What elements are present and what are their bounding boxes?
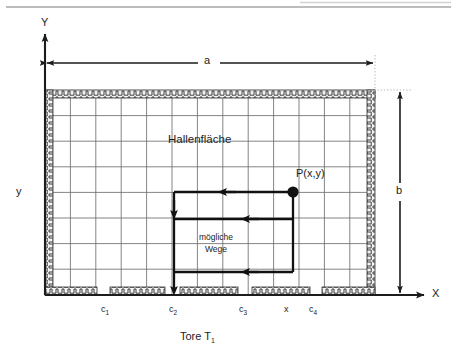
axis-tick-label-x: x (284, 305, 289, 314)
caption-subscript: 1 (211, 337, 215, 344)
axis-tick-label-c2: c2 (169, 305, 177, 317)
axis-tick-label-c4: c4 (309, 305, 317, 317)
axis-label-y-lower: y (16, 186, 22, 198)
axis-label-x: X (432, 288, 439, 300)
point-p-marker (287, 186, 298, 197)
page-rule (6, 3, 451, 8)
axis-tick-label-c1: c1 (101, 305, 109, 317)
caption-text: Tore T (180, 330, 211, 342)
tick-subscript: 3 (244, 309, 248, 316)
tick-subscript: 4 (314, 309, 318, 316)
figure-caption: Tore T1 (180, 331, 215, 345)
paths-label-line2: Wege (191, 245, 241, 254)
axis-label-y: Y (41, 17, 48, 29)
point-label-p: P(x,y) (296, 168, 325, 180)
area-label-hallenflaeche: Hallenfläche (168, 133, 231, 145)
figure-canvas: Y X y a b Hallenfläche P(x,y) mögliche W… (0, 0, 457, 359)
tick-base: x (284, 304, 289, 314)
axis-tick-label-c3: c3 (239, 305, 247, 317)
tick-subscript: 1 (106, 309, 110, 316)
dimension-label-b: b (396, 185, 402, 197)
dimension-label-a: a (204, 55, 210, 67)
paths-label-line1: mögliche (191, 233, 241, 242)
tick-subscript: 2 (174, 309, 178, 316)
diagram-svg (0, 0, 457, 359)
dimension-helpers (371, 55, 412, 95)
